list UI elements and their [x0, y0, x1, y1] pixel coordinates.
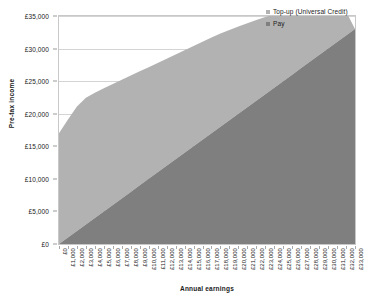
y-axis-tick-label: £35,000 — [25, 13, 49, 20]
y-axis-tick-label: £30,000 — [25, 45, 49, 52]
x-axis-title: Annual earnings — [58, 285, 356, 292]
chart-container: Pre-tax income £0£5,000£10,000£15,000£20… — [0, 0, 366, 299]
x-axis-tick-label: £33,000 — [358, 248, 364, 270]
x-axis-tick-label: £2,000 — [79, 248, 85, 267]
x-axis-tick-label: £30,000 — [331, 248, 337, 270]
x-axis-tick-label: £29,000 — [322, 248, 328, 270]
legend-swatch-pay — [266, 22, 270, 26]
x-axis-tick — [211, 246, 212, 249]
x-axis-tick — [310, 246, 311, 249]
y-axis-tick — [53, 211, 57, 212]
x-axis-tick-label: £3,000 — [88, 248, 94, 267]
chart-legend: Top-up (Universal Credit) Pay — [266, 8, 362, 31]
x-axis-tick-label: £7,000 — [124, 248, 130, 267]
x-axis-tick-label: £26,000 — [295, 248, 301, 270]
x-axis-tick — [229, 246, 230, 249]
x-axis-tick-label: £32,000 — [349, 248, 355, 270]
legend-item-pay[interactable]: Pay — [266, 20, 362, 28]
x-axis-tick-label: £5,000 — [106, 248, 112, 267]
x-axis-tick-label: £19,000 — [232, 248, 238, 270]
x-axis-tick-label: £21,000 — [250, 248, 256, 270]
x-axis-tick-label: £9,000 — [142, 248, 148, 267]
x-axis-tick — [283, 246, 284, 249]
x-axis-tick — [122, 246, 123, 249]
x-axis-tick — [149, 246, 150, 249]
x-axis-tick-label: £4,000 — [97, 248, 103, 267]
y-axis-tick — [53, 81, 57, 82]
y-axis-tick-label: £25,000 — [25, 78, 49, 85]
x-axis-tick — [220, 246, 221, 249]
x-axis-tick — [86, 246, 87, 249]
y-axis-tick — [53, 113, 57, 114]
x-axis-tick — [265, 246, 266, 249]
x-axis-tick — [355, 246, 356, 249]
x-axis-tick — [68, 246, 69, 249]
x-axis-tick — [238, 246, 239, 249]
y-axis-tick-label: £15,000 — [25, 143, 49, 150]
legend-item-topup[interactable]: Top-up (Universal Credit) — [266, 8, 362, 16]
x-axis-tick-label: £11,000 — [160, 248, 166, 270]
x-axis-tick — [131, 246, 132, 249]
x-axis-tick — [301, 246, 302, 249]
legend-swatch-topup — [266, 10, 270, 14]
x-axis-tick — [176, 246, 177, 249]
x-axis-tick — [140, 246, 141, 249]
plot-area — [58, 15, 356, 245]
x-axis-tick — [247, 246, 248, 249]
x-axis-tick-label: £25,000 — [286, 248, 292, 270]
y-axis-tick-label: £20,000 — [25, 110, 49, 117]
x-axis-tick — [104, 246, 105, 249]
y-axis-tick — [53, 244, 57, 245]
x-axis-tick-label: £28,000 — [313, 248, 319, 270]
x-axis-tick-label: £14,000 — [187, 248, 193, 270]
x-axis-tick-label: £20,000 — [241, 248, 247, 270]
x-axis-tick — [158, 246, 159, 249]
x-axis-tick — [77, 246, 78, 249]
y-axis-tick-label: £0 — [42, 241, 49, 248]
x-axis-tick — [328, 246, 329, 249]
x-axis-tick — [167, 246, 168, 249]
x-axis-tick-label: £23,000 — [268, 248, 274, 270]
x-axis-tick-label: £27,000 — [304, 248, 310, 270]
y-axis: Pre-tax income £0£5,000£10,000£15,000£20… — [0, 0, 58, 246]
x-axis-tick-label: £13,000 — [178, 248, 184, 270]
legend-label-pay: Pay — [273, 20, 285, 28]
x-axis-tick — [203, 246, 204, 249]
x-axis-tick — [113, 246, 114, 249]
x-axis-tick — [346, 246, 347, 249]
y-axis-tick-label: £5,000 — [29, 208, 49, 215]
x-axis-tick — [319, 246, 320, 249]
x-axis-tick-label: £22,000 — [259, 248, 265, 270]
x-axis-tick-label: £1,000 — [70, 248, 76, 267]
x-axis-tick-label: £31,000 — [340, 248, 346, 270]
x-axis-tick-label: £16,000 — [205, 248, 211, 270]
x-axis-tick — [292, 246, 293, 249]
x-axis-tick — [185, 246, 186, 249]
x-axis-tick-label: £24,000 — [277, 248, 283, 270]
x-axis-tick — [337, 246, 338, 249]
x-axis-tick — [256, 246, 257, 249]
y-axis-tick-label: £10,000 — [25, 175, 49, 182]
x-axis-tick — [95, 246, 96, 249]
legend-label-topup: Top-up (Universal Credit) — [273, 8, 348, 16]
x-axis-tick-label: £8,000 — [133, 248, 139, 267]
y-axis-tick — [53, 16, 57, 17]
y-axis-title: Pre-tax income — [8, 66, 15, 142]
y-axis-tick — [53, 146, 57, 147]
x-axis-tick-label: £17,000 — [214, 248, 220, 270]
x-axis: £0£1,000£2,000£3,000£4,000£5,000£6,000£7… — [58, 246, 356, 286]
x-axis-tick-label: £15,000 — [196, 248, 202, 270]
x-axis-tick — [59, 246, 60, 249]
area-series-layer — [59, 16, 355, 244]
y-axis-tick — [53, 48, 57, 49]
x-axis-tick — [194, 246, 195, 249]
x-axis-tick-label: £0 — [62, 248, 68, 255]
x-axis-tick-label: £12,000 — [169, 248, 175, 270]
x-axis-tick-label: £6,000 — [115, 248, 121, 267]
x-axis-tick — [274, 246, 275, 249]
y-axis-tick — [53, 178, 57, 179]
x-axis-tick-label: £10,000 — [151, 248, 157, 270]
x-axis-tick-label: £18,000 — [223, 248, 229, 270]
